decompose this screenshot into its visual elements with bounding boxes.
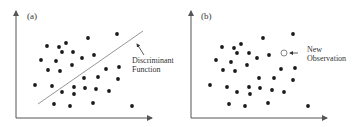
annotation-label: New Observation bbox=[307, 45, 346, 63]
panel-b: (b) New Observation bbox=[191, 11, 346, 118]
annotation-line-2: Function bbox=[132, 65, 160, 74]
data-point bbox=[279, 67, 283, 71]
data-points bbox=[208, 32, 310, 108]
data-point bbox=[107, 89, 111, 93]
data-point bbox=[33, 83, 37, 87]
new-observation-marker bbox=[281, 50, 287, 56]
annotation-line-2: Observation bbox=[307, 54, 346, 63]
data-point bbox=[245, 63, 249, 67]
data-point bbox=[239, 42, 243, 46]
data-point bbox=[72, 85, 76, 89]
data-point bbox=[117, 65, 121, 69]
data-point bbox=[293, 66, 297, 70]
data-point bbox=[229, 60, 233, 64]
data-point bbox=[58, 69, 62, 73]
annotation-line-1: Discriminant bbox=[132, 56, 175, 65]
data-point bbox=[80, 56, 84, 60]
data-point bbox=[94, 87, 98, 91]
data-point bbox=[221, 68, 225, 72]
discriminant-function-line bbox=[38, 31, 143, 104]
data-point bbox=[257, 76, 261, 80]
data-point bbox=[270, 88, 274, 92]
data-point bbox=[71, 50, 75, 54]
figure: (a) Discriminant Function (b) New Observ… bbox=[0, 0, 356, 127]
data-point bbox=[50, 84, 54, 88]
annotation-label: Discriminant Function bbox=[132, 56, 176, 74]
data-point bbox=[306, 104, 310, 108]
data-point bbox=[96, 75, 100, 79]
data-point bbox=[255, 56, 259, 60]
data-point bbox=[225, 85, 229, 89]
data-point bbox=[208, 83, 212, 87]
data-point bbox=[235, 51, 239, 55]
data-point bbox=[232, 46, 236, 50]
data-point bbox=[92, 53, 96, 57]
data-point bbox=[116, 77, 120, 81]
data-point bbox=[72, 92, 76, 96]
data-point bbox=[247, 51, 251, 55]
data-point bbox=[233, 69, 237, 73]
data-point bbox=[258, 86, 262, 90]
data-point bbox=[247, 85, 251, 89]
annotation-line-1: New bbox=[307, 45, 322, 54]
data-point bbox=[60, 50, 64, 54]
data-point bbox=[266, 101, 270, 105]
data-point bbox=[235, 90, 239, 94]
data-point bbox=[115, 32, 119, 36]
data-point bbox=[52, 102, 56, 106]
data-point bbox=[46, 68, 50, 72]
data-point bbox=[60, 90, 64, 94]
data-point bbox=[83, 86, 87, 90]
data-point bbox=[86, 36, 90, 40]
data-point bbox=[227, 102, 231, 106]
data-point bbox=[291, 78, 295, 82]
axes bbox=[191, 11, 327, 118]
data-point bbox=[248, 92, 252, 96]
data-point bbox=[214, 58, 218, 62]
data-point bbox=[261, 36, 265, 40]
data-point bbox=[267, 53, 271, 57]
data-point bbox=[68, 104, 72, 108]
data-point bbox=[64, 41, 68, 45]
data-point bbox=[291, 32, 295, 36]
data-point bbox=[130, 104, 134, 108]
data-point bbox=[220, 45, 224, 49]
data-point bbox=[57, 45, 61, 49]
data-point bbox=[45, 44, 49, 48]
data-point bbox=[54, 59, 58, 63]
data-point bbox=[82, 76, 86, 80]
panel-label: (a) bbox=[27, 11, 37, 21]
annotation-arrow-icon bbox=[137, 44, 144, 55]
data-point bbox=[39, 58, 43, 62]
data-point bbox=[91, 101, 95, 105]
data-point bbox=[243, 104, 247, 108]
data-point bbox=[70, 63, 74, 67]
data-point bbox=[272, 76, 276, 80]
panel-label: (b) bbox=[201, 11, 212, 21]
data-point bbox=[282, 90, 286, 94]
panel-a: (a) Discriminant Function bbox=[16, 11, 176, 118]
data-point bbox=[104, 67, 108, 71]
